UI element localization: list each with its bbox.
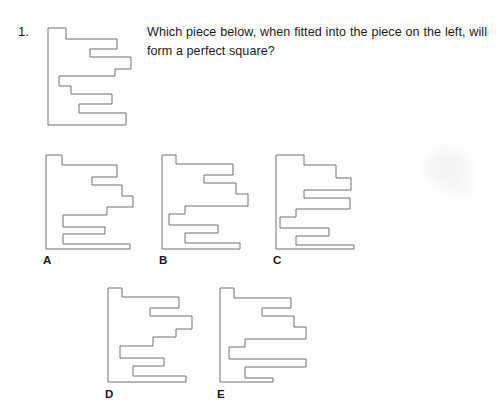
option-e-label: E: [217, 388, 225, 401]
option-e[interactable]: [218, 286, 313, 384]
option-a[interactable]: [44, 153, 139, 251]
question-number: 1.: [18, 24, 29, 40]
scan-artifact-smudge: [448, 176, 474, 198]
option-c[interactable]: [274, 153, 369, 251]
option-b-piece[interactable]: [162, 155, 248, 249]
option-d[interactable]: [106, 286, 201, 384]
option-a-piece[interactable]: [46, 155, 133, 249]
main-piece-svg: [46, 26, 134, 130]
option-e-svg[interactable]: [218, 286, 313, 384]
prompt-figure: [46, 26, 134, 130]
option-d-label: D: [105, 388, 113, 401]
option-e-piece[interactable]: [220, 288, 306, 382]
option-b[interactable]: [160, 153, 255, 251]
option-b-svg[interactable]: [160, 153, 255, 251]
option-c-svg[interactable]: [274, 153, 369, 251]
option-b-label: B: [159, 254, 167, 267]
option-d-piece[interactable]: [108, 288, 192, 382]
main-piece: [48, 28, 131, 125]
question-text: Which piece below, when fitted into the …: [147, 23, 487, 60]
option-d-svg[interactable]: [106, 286, 201, 384]
option-c-label: C: [273, 254, 281, 267]
option-a-svg[interactable]: [44, 153, 139, 251]
option-c-piece[interactable]: [276, 155, 354, 249]
option-a-label: A: [43, 254, 51, 267]
scan-artifact-smudge: [424, 148, 470, 188]
